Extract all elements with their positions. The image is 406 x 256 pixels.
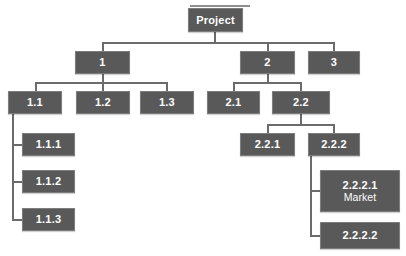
wbs-node-sublabel: Market (344, 191, 377, 203)
connector-level1-bus (102, 42, 335, 44)
wbs-node-label: 1.1.3 (36, 213, 61, 226)
wbs-node-n1[interactable]: 1 (75, 51, 130, 74)
wbs-node-label: 2.2.2 (321, 138, 346, 151)
connector-level3b-bus (267, 124, 334, 126)
wbs-node-n221[interactable]: 2.2.1 (240, 133, 295, 156)
connector-node22-stem-down (300, 114, 302, 124)
wbs-node-n112[interactable]: 1.1.2 (22, 170, 75, 193)
connector-level2a-bus (35, 82, 167, 84)
wbs-node-label: 2.2.2.2 (342, 229, 377, 242)
wbs-node-n12[interactable]: 1.2 (76, 91, 130, 114)
connector-level2b-bus (233, 82, 301, 84)
wbs-node-n3[interactable]: 3 (308, 51, 360, 74)
wbs-node-label: 1 (99, 56, 105, 69)
wbs-node-label: 2.2.1 (255, 138, 280, 151)
wbs-node-n21[interactable]: 2.1 (207, 91, 260, 114)
wbs-node-label: 2.2.2.1 (342, 179, 377, 192)
wbs-node-label: 2 (264, 56, 270, 69)
wbs-node-n113[interactable]: 1.1.3 (22, 208, 75, 231)
wbs-node-label: 3 (331, 56, 337, 69)
wbs-node-n222[interactable]: 2.2.2 (308, 133, 360, 156)
wbs-node-label: 1.1 (27, 96, 43, 109)
wbs-node-label: 1.1.1 (36, 138, 61, 151)
wbs-node-label: 1.1.2 (36, 175, 61, 188)
cropped-rule-above-project (190, 5, 250, 7)
wbs-node-project[interactable]: Project (188, 8, 243, 32)
wbs-diagram: Project1231.11.21.32.12.21.1.11.1.21.1.3… (0, 0, 406, 256)
wbs-node-label: 1.3 (159, 96, 175, 109)
wbs-node-n11[interactable]: 1.1 (8, 91, 62, 114)
connector-node11-trunk (12, 114, 14, 220)
wbs-node-n111[interactable]: 1.1.1 (22, 133, 75, 156)
connector-node222-trunk (310, 156, 312, 236)
wbs-node-label: 1.2 (95, 96, 111, 109)
wbs-node-n2222[interactable]: 2.2.2.2 (320, 222, 400, 249)
wbs-node-label: 2.2 (293, 96, 309, 109)
wbs-node-label: 2.1 (226, 96, 242, 109)
wbs-node-n2[interactable]: 2 (240, 51, 295, 74)
wbs-node-n22[interactable]: 2.2 (272, 91, 330, 114)
wbs-node-n2221[interactable]: 2.2.2.1Market (320, 170, 400, 212)
wbs-node-label: Project (196, 14, 235, 27)
wbs-node-n13[interactable]: 1.3 (140, 91, 194, 114)
